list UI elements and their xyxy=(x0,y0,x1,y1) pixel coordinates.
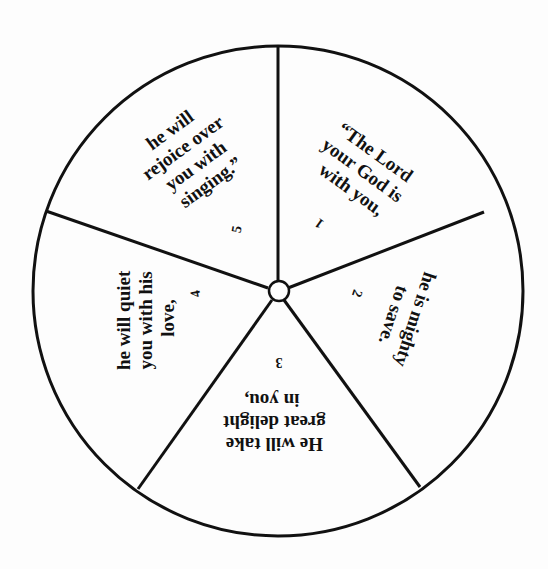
svg-text:He will take great delig: He will take great delight in you, xyxy=(218,390,325,455)
segment-4-line-2: you with his xyxy=(135,271,156,369)
segment-3-line-3: in you, xyxy=(244,390,299,411)
svg-text:“The Lord your God is: “The Lord your God is with you, xyxy=(305,116,424,227)
hub xyxy=(269,281,289,301)
segment-2: he is mighty to save. xyxy=(368,263,441,374)
segment-1: “The Lord your God is with you, xyxy=(305,116,424,227)
svg-text:he will rejoice over: he will rejoice over you with singing.” xyxy=(125,91,257,220)
svg-text:he will quiet you with h: he will quiet you with his love, xyxy=(113,266,178,370)
segment-3-line-1: He will take xyxy=(226,434,323,455)
segment-4-line-1: he will quiet xyxy=(113,270,134,370)
segment-5: he will rejoice over you with singing.” xyxy=(125,91,257,220)
segment-4: he will quiet you with his love, xyxy=(113,266,178,370)
segment-3: He will take great delight in you, xyxy=(218,390,325,455)
svg-text:he is mighty to save.: he is mighty to save. xyxy=(368,263,441,374)
segment-5-number: 5 xyxy=(229,224,245,233)
prayer-wheel: “The Lord your God is with you, 1 he is … xyxy=(0,0,548,569)
segment-3-number: 3 xyxy=(276,355,283,370)
segment-1-number: 1 xyxy=(312,216,326,232)
segment-3-line-2: great delight xyxy=(222,412,325,433)
spoke-left xyxy=(46,211,268,288)
segment-4-line-3: love, xyxy=(157,299,178,337)
segment-2-number: 2 xyxy=(349,288,365,299)
segment-4-number: 4 xyxy=(188,289,204,298)
